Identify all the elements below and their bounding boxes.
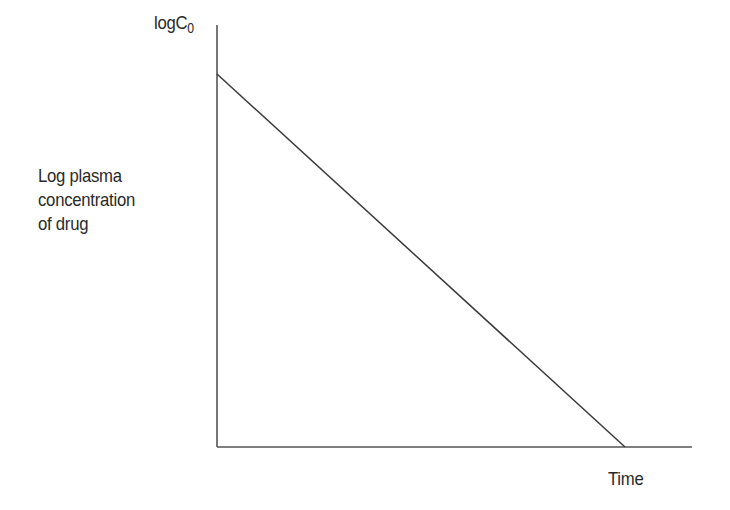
chart-canvas xyxy=(0,0,730,510)
y-axis-label-line-2: concentration xyxy=(38,188,135,212)
elimination-line xyxy=(217,74,625,447)
y-axis-label-line-1: Log plasma xyxy=(38,164,135,188)
y-axis-label: Log plasma concentration of drug xyxy=(38,164,135,236)
y-axis-tick-logc0: logC0 xyxy=(154,12,194,36)
x-axis-label: Time xyxy=(608,468,643,490)
y-tick-subscript: 0 xyxy=(187,20,194,36)
y-axis-label-line-3: of drug xyxy=(38,212,135,236)
y-tick-main: logC xyxy=(154,12,187,33)
